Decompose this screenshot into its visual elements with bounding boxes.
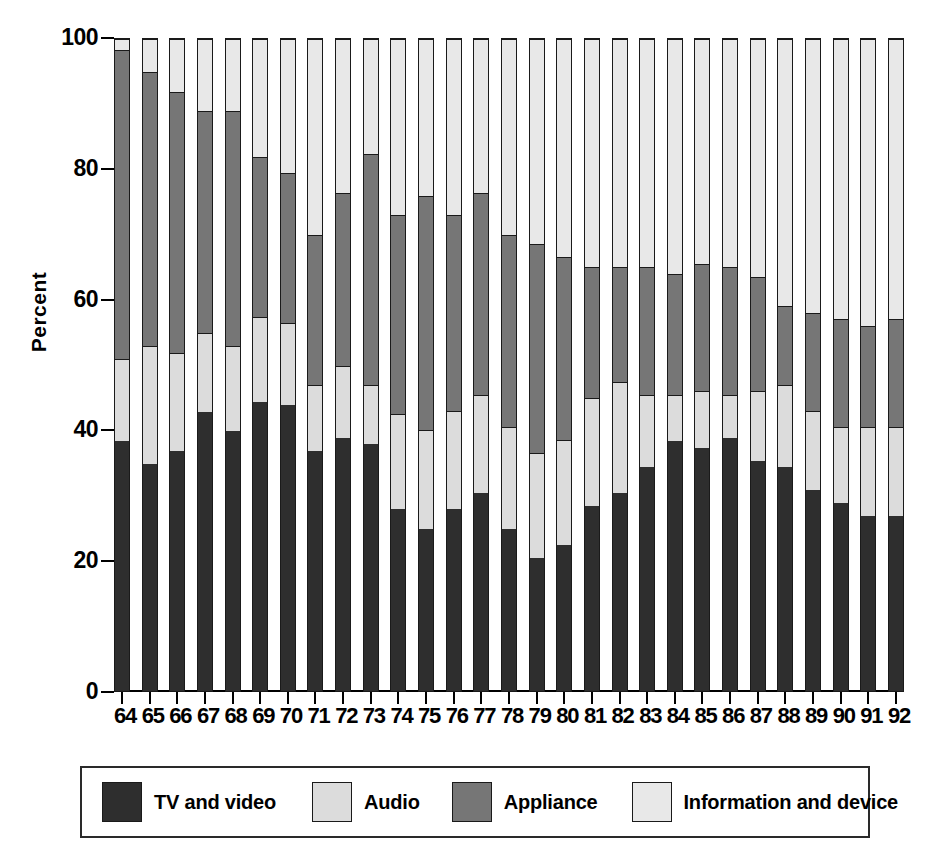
- x-tick-label: 74: [390, 703, 406, 735]
- bar-segment: [557, 440, 571, 545]
- bar-segment: [695, 391, 709, 447]
- bar-segment: [253, 157, 267, 317]
- bar-segment: [308, 451, 322, 691]
- bar-segment: [861, 39, 875, 326]
- bar-column: [142, 38, 158, 692]
- plot-area: Percent 100806040200 6465666768697071727…: [0, 0, 950, 740]
- bar-segment: [253, 402, 267, 691]
- bar-segment: [336, 39, 350, 193]
- bar-column: [197, 38, 213, 692]
- legend-item[interactable]: Audio: [312, 782, 420, 822]
- bar-segment: [170, 353, 184, 451]
- y-tick-mark: [101, 691, 114, 693]
- bar-segment: [281, 323, 295, 405]
- y-tick-mark: [101, 560, 114, 562]
- y-tick-mark: [101, 168, 114, 170]
- bar-segment: [143, 464, 157, 691]
- bar-column: [777, 38, 793, 692]
- x-tick-label: 88: [777, 703, 793, 735]
- bar-segment: [447, 509, 461, 691]
- y-tick-mark: [101, 37, 114, 39]
- bar-column: [750, 38, 766, 692]
- bar-segment: [806, 39, 820, 313]
- bar-segment: [447, 39, 461, 215]
- x-tick-label: 70: [280, 703, 296, 735]
- bar-segment: [889, 319, 903, 427]
- bar-segment: [308, 235, 322, 385]
- bar-column: [114, 38, 130, 692]
- bar-segment: [557, 257, 571, 440]
- bar-segment: [419, 529, 433, 691]
- bar-segment: [861, 427, 875, 516]
- x-tick-label: 76: [446, 703, 462, 735]
- bar-segment: [447, 215, 461, 411]
- x-axis-tick-labels: 6465666768697071727374757677787980818283…: [114, 703, 904, 735]
- bar-segment: [585, 267, 599, 398]
- bar-segment: [198, 39, 212, 111]
- legend-swatch-icon: [632, 782, 672, 822]
- legend-label: Information and device: [684, 791, 899, 814]
- bar-segment: [419, 39, 433, 196]
- x-tick-label: 72: [335, 703, 351, 735]
- bar-segment: [474, 39, 488, 193]
- bar-segment: [695, 448, 709, 691]
- bar-segment: [364, 39, 378, 154]
- bar-segment: [751, 277, 765, 392]
- bar-column: [501, 38, 517, 692]
- legend-item[interactable]: Appliance: [452, 782, 598, 822]
- bar-column: [722, 38, 738, 692]
- bar-segment: [143, 72, 157, 346]
- bar-segment: [170, 92, 184, 353]
- bar-group: [114, 38, 904, 692]
- bar-segment: [834, 503, 848, 691]
- y-tick-mark: [101, 429, 114, 431]
- bar-column: [390, 38, 406, 692]
- bar-segment: [778, 306, 792, 385]
- bar-segment: [391, 39, 405, 215]
- y-tick-label: 40: [73, 418, 98, 441]
- x-tick-label: 73: [363, 703, 379, 735]
- bar-segment: [806, 490, 820, 691]
- bar-segment: [391, 414, 405, 509]
- bar-segment: [557, 545, 571, 691]
- bar-segment: [474, 493, 488, 691]
- bar-segment: [502, 427, 516, 529]
- bar-segment: [530, 39, 544, 244]
- bar-segment: [778, 385, 792, 467]
- bar-segment: [613, 39, 627, 267]
- bar-segment: [723, 267, 737, 395]
- legend-swatch-icon: [452, 782, 492, 822]
- x-tick-label: 87: [750, 703, 766, 735]
- bar-segment: [364, 385, 378, 444]
- x-tick-label: 90: [833, 703, 849, 735]
- bar-segment: [447, 411, 461, 509]
- bar-column: [280, 38, 296, 692]
- bar-segment: [170, 39, 184, 92]
- bar-segment: [530, 558, 544, 691]
- bar-column: [860, 38, 876, 692]
- bar-segment: [889, 516, 903, 691]
- x-tick-label: 75: [418, 703, 434, 735]
- legend-item[interactable]: TV and video: [102, 782, 276, 822]
- x-tick-label: 69: [252, 703, 268, 735]
- legend-item[interactable]: Information and device: [632, 782, 899, 822]
- bar-column: [694, 38, 710, 692]
- bar-column: [639, 38, 655, 692]
- x-tick-label: 80: [556, 703, 572, 735]
- chart-legend: TV and videoAudioApplianceInformation an…: [80, 766, 870, 838]
- bar-segment: [391, 215, 405, 414]
- legend-swatch-icon: [312, 782, 352, 822]
- bar-segment: [778, 39, 792, 306]
- bar-column: [888, 38, 904, 692]
- bar-column: [805, 38, 821, 692]
- bar-segment: [474, 193, 488, 395]
- bar-segment: [889, 427, 903, 516]
- bar-segment: [751, 39, 765, 277]
- bar-segment: [640, 267, 654, 395]
- bar-segment: [198, 412, 212, 691]
- bar-segment: [226, 431, 240, 691]
- bar-segment: [668, 441, 682, 691]
- bar-column: [612, 38, 628, 692]
- bar-column: [335, 38, 351, 692]
- bar-segment: [281, 39, 295, 173]
